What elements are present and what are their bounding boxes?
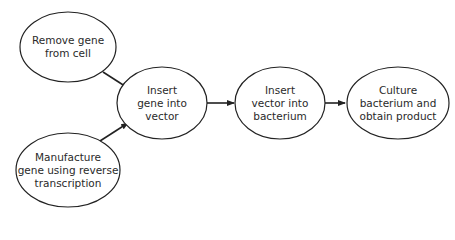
arrow-manufacture-to-insert-gene [100, 123, 128, 141]
label-line: gene using reverse [18, 164, 119, 177]
label-line: bacterium and [360, 97, 437, 110]
label-line: Culture [360, 84, 437, 97]
label-line: Manufacture [18, 151, 119, 164]
label-insert-gene-into-vector: Insert gene into vector [137, 84, 187, 123]
label-line: transcription [18, 177, 119, 190]
label-line: Remove gene [32, 34, 104, 47]
label-insert-vector-into-bacterium: Insert vector into bacterium [252, 84, 309, 123]
label-line: Insert [252, 84, 309, 97]
label-manufacture-gene: Manufacture gene using reverse transcrip… [18, 151, 119, 190]
label-line: bacterium [252, 110, 309, 123]
label-remove-gene: Remove gene from cell [32, 34, 104, 60]
label-line: from cell [32, 47, 104, 60]
label-line: gene into [137, 97, 187, 110]
label-line: Insert [137, 84, 187, 97]
label-culture-bacterium: Culture bacterium and obtain product [360, 84, 437, 123]
label-line: obtain product [360, 110, 437, 123]
label-line: vector [137, 110, 187, 123]
label-line: vector into [252, 97, 309, 110]
